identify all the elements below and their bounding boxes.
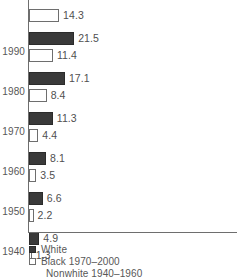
legend-label: White (41, 244, 67, 255)
legend-label: Black 1970–2000 (41, 256, 120, 267)
bar-black-series (29, 49, 53, 62)
bar-value-label: 21.5 (78, 32, 99, 45)
legend-label: Nonwhite 1940–1960 (46, 268, 142, 278)
y-axis-tick-label: 1950 (0, 206, 25, 217)
y-axis-tick-label: 1980 (0, 86, 25, 97)
x-axis-line (28, 232, 237, 233)
y-axis-tick-label: 1940 (0, 246, 25, 257)
bar-value-label: 4.4 (42, 129, 57, 142)
bar-row: 11.3 (29, 112, 229, 125)
bar-row: 6.6 (29, 192, 229, 205)
bar-row: 11.4 (29, 49, 229, 62)
bar-white-series (29, 192, 43, 205)
bar-white-series (29, 112, 53, 125)
y-axis-tick-label: 1970 (0, 126, 25, 137)
bar-row: 21.5 (29, 32, 229, 45)
y-axis-line (28, 0, 29, 233)
bar-value-label: 11.3 (57, 112, 77, 125)
y-axis-tick-label: 1990 (0, 46, 25, 57)
bar-black-series (29, 169, 36, 182)
bar-row: 8.4 (29, 89, 229, 102)
bar-value-label: 6.6 (47, 192, 62, 205)
bar-row: 17.1 (29, 72, 229, 85)
bar-group: 14.3 (0, 0, 237, 22)
legend-item: White (29, 244, 229, 255)
bar-group: 19506.62.2 (0, 192, 237, 222)
bar-white-series (29, 32, 74, 45)
bar-value-label: 11.4 (57, 49, 77, 62)
bar-group: 197011.34.4 (0, 112, 237, 142)
legend-item: Black 1970–2000 (29, 256, 229, 267)
bar-row: 8.1 (29, 152, 229, 165)
bar-value-label: 2.2 (38, 209, 53, 222)
bar-value-label: 8.4 (51, 89, 66, 102)
bar-row: 2.2 (29, 209, 229, 222)
bar-black-series (29, 129, 38, 142)
y-axis-tick-label: 1960 (0, 166, 25, 177)
bar-group: 19608.13.5 (0, 152, 237, 182)
legend-swatch-hollow (29, 258, 36, 265)
bar-group: 199021.511.4 (0, 32, 237, 62)
bar-value-label: 14.3 (63, 9, 84, 22)
chart-legend: WhiteBlack 1970–2000Nonwhite 1940–1960 (29, 244, 229, 278)
legend-item: Nonwhite 1940–1960 (29, 268, 229, 278)
bar-black-series (29, 89, 47, 102)
bar-value-label: 3.5 (40, 169, 55, 182)
bar-group: 198017.18.4 (0, 72, 237, 102)
bar-chart: 14.3199021.511.4198017.18.4197011.34.419… (0, 0, 237, 278)
legend-swatch-filled (29, 246, 36, 253)
plot-area: 14.3199021.511.4198017.18.4197011.34.419… (0, 0, 237, 233)
bar-row: 4.4 (29, 129, 229, 142)
bar-value-label: 8.1 (50, 152, 65, 165)
bar-row: 14.3 (29, 9, 229, 22)
bar-white-series (29, 152, 46, 165)
bar-black-series (29, 209, 34, 222)
bar-row: 3.5 (29, 169, 229, 182)
bar-white-series (29, 72, 65, 85)
bar-value-label: 17.1 (69, 72, 90, 85)
bar-black-series (29, 9, 59, 22)
